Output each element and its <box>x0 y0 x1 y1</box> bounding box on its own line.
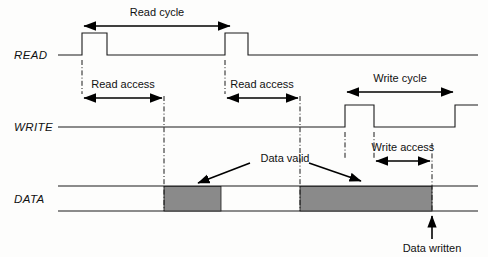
callout-data-written: Data written <box>403 216 462 254</box>
data-valid-arrow-right <box>309 163 361 181</box>
timing-diagram-canvas: READ WRITE DATA <box>0 0 488 257</box>
read-signal-trace <box>58 33 478 55</box>
measurement-read-access-1: Read access <box>84 78 162 98</box>
write-signal-trace <box>58 105 478 127</box>
write-waveform <box>58 105 478 127</box>
write-access-label: Write access <box>372 141 435 153</box>
data-written-label: Data written <box>403 242 462 254</box>
data-valid-block-write <box>300 187 432 212</box>
read-access-1-label: Read access <box>91 78 155 90</box>
signal-label-data: DATA <box>14 193 45 205</box>
measurement-read-cycle: Read cycle <box>84 6 230 26</box>
callout-data-valid: Data valid <box>198 152 361 183</box>
measurement-read-access-2: Read access <box>227 78 298 98</box>
data-valid-label: Data valid <box>261 152 310 164</box>
data-waveform <box>58 186 478 211</box>
data-valid-block-read <box>164 187 221 212</box>
write-cycle-label: Write cycle <box>373 72 427 84</box>
timing-diagram: READ WRITE DATA <box>0 0 488 257</box>
read-access-2-label: Read access <box>230 78 294 90</box>
measurement-write-access: Write access <box>372 141 435 161</box>
read-cycle-label: Read cycle <box>130 6 184 18</box>
measurement-write-cycle: Write cycle <box>347 72 453 92</box>
read-waveform <box>58 33 478 55</box>
data-valid-arrow-left <box>198 163 250 183</box>
signal-label-read: READ <box>14 49 48 61</box>
signal-label-write: WRITE <box>14 121 53 133</box>
